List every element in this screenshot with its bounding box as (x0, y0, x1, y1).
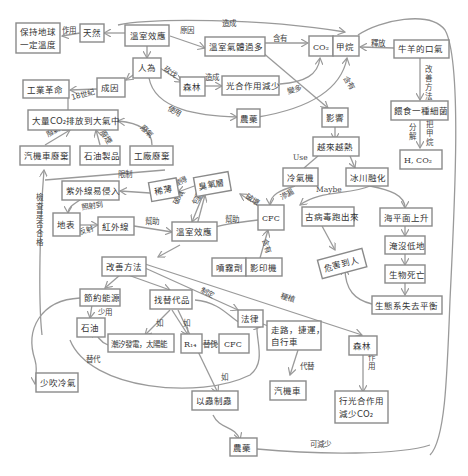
node-greenhouse-effect-top[interactable]: 溫室效應 (125, 25, 169, 46)
node-h-co2[interactable]: H, CO₂ (400, 150, 442, 169)
concept-map: 造成 原因 作用 含有 釋放 砍伐 造成 變多 含有 18世紀 使用 改善方法 … (0, 0, 468, 476)
node-cfc-mid[interactable]: CFC (258, 205, 284, 230)
label-replace2: 替代 (203, 339, 218, 349)
node-biological-death[interactable]: 生物死亡 (385, 265, 425, 283)
node-photosynthesis-reduce-co2[interactable]: 行光合作用 減少CO₂ (335, 391, 388, 423)
node-biological-control[interactable]: 以蟲制蟲 (192, 391, 238, 410)
node-oil[interactable]: 石油 (77, 318, 105, 337)
node-ozone[interactable]: 臭氧層 (193, 172, 231, 197)
svg-text:紅外線: 紅外線 (102, 222, 129, 232)
svg-text:生態系失去平衡: 生態系失去平衡 (375, 301, 438, 311)
svg-text:汽機車廢棄: 汽機車廢棄 (24, 151, 69, 161)
node-save-energy[interactable]: 節約能源 (80, 289, 120, 306)
node-glacier-melt[interactable]: 冰川融化 (346, 168, 388, 186)
node-forest-bottom[interactable]: 森林 (349, 336, 377, 355)
node-pesticide-bottom[interactable]: 農藥 (230, 438, 257, 456)
node-greenhouse-gas-excess[interactable]: 溫室氣體過多 (205, 37, 265, 56)
node-r14[interactable]: R₁₄ (181, 334, 202, 353)
label-maybe: Maybe (316, 185, 342, 194)
node-thin[interactable]: 稀薄 (148, 178, 179, 202)
svg-text:影印機: 影印機 (250, 263, 277, 273)
label-release: 釋放 (371, 38, 386, 48)
node-hotter[interactable]: 越來越熱 (313, 137, 359, 156)
svg-text:越來越熱: 越來越熱 (317, 142, 353, 152)
node-tidal-solar[interactable]: 潮汐發電，太陽能 (108, 334, 174, 352)
svg-text:石油製品: 石油製品 (84, 151, 120, 161)
svg-text:自行車: 自行車 (271, 337, 298, 347)
svg-text:法律: 法律 (241, 314, 259, 324)
svg-text:影響: 影響 (326, 113, 344, 123)
node-ecosystem-imbalance[interactable]: 生態系失去平衡 (372, 296, 442, 314)
svg-text:行光合作用: 行光合作用 (339, 396, 384, 406)
node-less-air-conditioning[interactable]: 少吹冷氣 (36, 373, 78, 392)
node-find-alternatives[interactable]: 找替代品 (150, 290, 192, 309)
label-less-use: 少用 (98, 308, 112, 317)
svg-text:H, CO₂: H, CO₂ (404, 156, 432, 165)
node-co2-methane[interactable]: CO₂ 甲烷 (309, 36, 359, 56)
label-exhaust2: 廢氣 (139, 122, 157, 140)
node-uv-invade[interactable]: 紫外線易侵入 (62, 181, 120, 200)
svg-text:溫室氣體過多: 溫室氣體過多 (209, 42, 263, 52)
svg-text:牛羊的口氣: 牛羊的口氣 (398, 44, 443, 54)
node-infrared[interactable]: 紅外線 (98, 217, 134, 235)
svg-text:潮汐發電，太陽能: 潮汐發電，太陽能 (111, 339, 168, 349)
svg-text:溫室效應: 溫室效應 (130, 31, 166, 41)
svg-text:古病毒跑出來: 古病毒跑出來 (305, 212, 359, 222)
node-car-exhaust[interactable]: 汽機車廢棄 (20, 146, 70, 165)
svg-text:森林: 森林 (183, 82, 201, 92)
node-pesticide-top[interactable]: 農藥 (237, 109, 260, 127)
node-natural[interactable]: 天然 (80, 24, 104, 42)
node-spray-copier[interactable]: 噴霧劑 影印機 (212, 258, 282, 276)
label-plant: 種植 (279, 290, 296, 304)
label-such-as: 如 (156, 318, 163, 328)
node-air-conditioner[interactable]: 冷氣機 (283, 168, 318, 186)
label-methane-to: 把甲烷 (426, 119, 434, 147)
node-influence[interactable]: 影響 (322, 108, 348, 127)
node-human[interactable]: 人為 (133, 58, 161, 78)
svg-text:森林: 森林 (353, 341, 371, 351)
node-cattle-breath[interactable]: 牛羊的口氣 (394, 40, 449, 58)
label-improve-method: 改善方法 (425, 64, 433, 101)
svg-text:甲烷: 甲烷 (336, 42, 354, 52)
node-photosynthesis-decrease[interactable]: 光合作用減少 (222, 76, 280, 95)
label-replace: 替代 (86, 354, 101, 364)
nodes: 保持地球 一定溫度 天然 溫室效應 溫室氣體過多 CO₂ 甲烷 牛羊的口氣 人為 (16, 23, 449, 456)
svg-text:紫外線易侵入: 紫外線易侵入 (66, 186, 120, 196)
label-use-en: Use (293, 153, 308, 162)
node-improvement-methods[interactable]: 改善方法 (102, 257, 146, 276)
node-factory-waste[interactable]: 工廠廢棄 (130, 146, 173, 165)
svg-text:少吹冷氣: 少吹冷氣 (40, 378, 76, 388)
node-harm-people[interactable]: 危害到人 (317, 248, 366, 278)
node-walk-transit-bike[interactable]: 走路，捷運， 自行車 (267, 321, 325, 350)
node-flood-lowland[interactable]: 淹沒低地 (385, 236, 425, 254)
node-cfc-bottom[interactable]: CFC (219, 334, 249, 353)
node-law[interactable]: 法律 (238, 310, 263, 327)
svg-text:冰川融化: 冰川融化 (350, 173, 386, 183)
node-forest-top[interactable]: 森林 (180, 77, 205, 96)
node-ancient-virus[interactable]: 古病毒跑出來 (302, 207, 359, 226)
node-ground[interactable]: 地表 (53, 213, 80, 236)
svg-text:海平面上升: 海平面上升 (384, 213, 429, 223)
svg-text:CFC: CFC (262, 214, 280, 223)
svg-text:改善方法: 改善方法 (106, 262, 142, 272)
node-keep-temperature[interactable]: 保持地球 一定溫度 (16, 23, 60, 53)
node-car[interactable]: 汽機車 (270, 381, 306, 400)
label-decompose: 分解 (409, 123, 417, 141)
svg-text:淹沒低地: 淹沒低地 (389, 241, 425, 251)
label-effect: 作用 (62, 25, 76, 35)
svg-text:工廠廢棄: 工廠廢棄 (134, 151, 170, 161)
label-century: 18世紀 (70, 86, 96, 102)
svg-text:地表: 地表 (57, 220, 75, 230)
node-industrial-revolution[interactable]: 工業革命 (23, 80, 69, 98)
node-feed-bacteria[interactable]: 餵食一種細菌 (391, 101, 448, 120)
label-contains: 含有 (273, 33, 288, 43)
svg-text:汽機車: 汽機車 (274, 386, 301, 396)
node-cause[interactable]: 成因 (97, 78, 125, 97)
node-petroleum-products[interactable]: 石油製品 (80, 146, 120, 165)
node-sea-level-rise[interactable]: 海平面上升 (380, 208, 432, 226)
node-co2-emission[interactable]: 大量CO₂排放到大氣中 (28, 110, 120, 130)
label-such-as2: 如 (183, 318, 190, 328)
svg-text:以蟲制蟲: 以蟲制蟲 (196, 396, 232, 406)
label-causes: 造成 (205, 72, 220, 82)
node-greenhouse-effect-mid[interactable]: 溫室效應 (172, 222, 217, 241)
